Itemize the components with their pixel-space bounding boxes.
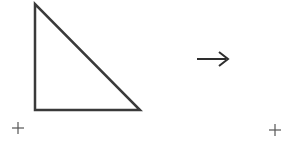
plus-marker-right <box>269 124 281 136</box>
plus-marker-left <box>12 122 24 134</box>
right-triangle <box>35 4 140 110</box>
right-arrow-icon <box>197 52 228 66</box>
diagram-canvas <box>0 0 294 142</box>
